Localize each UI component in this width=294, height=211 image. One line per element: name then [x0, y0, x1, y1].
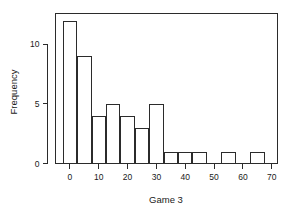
histogram-bar — [63, 21, 76, 163]
histogram-bar — [92, 116, 105, 163]
x-tick-label: 10 — [94, 172, 104, 182]
x-tick-label: 40 — [181, 172, 191, 182]
plot-canvas: 010203040506070 0510 Game 3 Frequency — [0, 0, 294, 211]
y-axis-tick-labels: 0510 — [30, 39, 40, 168]
x-tick-label: 0 — [68, 172, 73, 182]
x-axis-tick-labels: 010203040506070 — [68, 172, 277, 182]
histogram-figure: 010203040506070 0510 Game 3 Frequency — [0, 0, 294, 211]
histogram-bar — [193, 152, 206, 163]
x-tick-label: 30 — [152, 172, 162, 182]
y-axis-title: Frequency — [8, 69, 19, 114]
x-axis-title: Game 3 — [149, 194, 183, 205]
x-tick-label: 50 — [209, 172, 219, 182]
histogram-bar — [78, 57, 91, 163]
histogram-bar — [251, 152, 264, 163]
y-tick-label: 10 — [30, 39, 40, 49]
x-tick-label: 60 — [238, 172, 248, 182]
histogram-bar — [164, 152, 177, 163]
y-axis-ticks — [43, 44, 48, 163]
x-tick-label: 70 — [267, 172, 277, 182]
histogram-bar — [106, 104, 119, 163]
y-tick-label: 0 — [35, 159, 40, 169]
histogram-bar — [179, 152, 192, 163]
histogram-bar — [135, 128, 148, 163]
histogram-bar — [222, 152, 235, 163]
histogram-bar — [150, 104, 163, 163]
bars-group — [63, 21, 264, 163]
y-tick-label: 5 — [35, 99, 40, 109]
x-axis-ticks — [70, 164, 272, 169]
histogram-bar — [121, 116, 134, 163]
x-tick-label: 20 — [123, 172, 133, 182]
